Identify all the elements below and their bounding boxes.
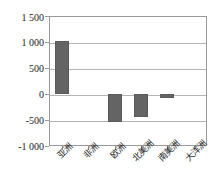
- bar-chart: 1 500 1 000 500 0 -500 -1 000 亚洲 非洲 欧洲 北…: [0, 0, 222, 192]
- x-tick-label-north-america: 北美洲: [129, 137, 157, 165]
- x-axis-labels: 亚洲 非洲 欧洲 北美洲 南美洲 大洋洲: [0, 0, 222, 192]
- x-tick-label-asia: 亚洲: [54, 140, 76, 162]
- x-tick-label-south-america: 南美洲: [155, 137, 183, 165]
- x-tick-label-europe: 欧洲: [107, 140, 129, 162]
- x-tick-label-africa: 非洲: [80, 140, 102, 162]
- x-tick-label-oceania: 大洋洲: [182, 137, 210, 165]
